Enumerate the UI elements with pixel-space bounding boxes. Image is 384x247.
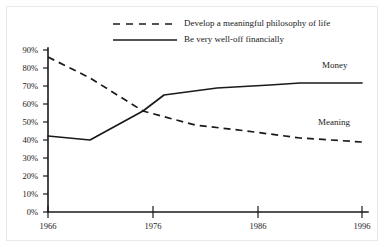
x-tick-label-1976: 1976 (133, 222, 173, 231)
y-tick-label-80: 80% (10, 64, 38, 73)
y-tick-label-50: 50% (10, 118, 38, 127)
chart-figure: 90% 80% 70% 60% 50% 40% 30% 20% 10% 0% 1… (0, 0, 384, 247)
y-tick-label-30: 30% (10, 154, 38, 163)
x-tick-label-1996: 1996 (342, 222, 382, 231)
y-tick-label-20: 20% (10, 172, 38, 181)
x-tick-label-1966: 1966 (28, 222, 68, 231)
y-tick-label-40: 40% (10, 136, 38, 145)
legend-label-meaning: Develop a meaningful philosophy of life (184, 19, 330, 28)
y-tick-label-70: 70% (10, 82, 38, 91)
y-tick-label-0: 0% (10, 208, 38, 217)
y-tick-label-10: 10% (10, 190, 38, 199)
series-label-meaning: Meaning (318, 118, 350, 127)
x-tick-label-1986: 1986 (238, 222, 278, 231)
y-tick-label-60: 60% (10, 100, 38, 109)
series-label-money: Money (322, 61, 348, 70)
legend-label-money: Be very well-off financially (184, 35, 284, 44)
series-line-meaning (48, 57, 362, 142)
y-tick-label-90: 90% (10, 46, 38, 55)
series-line-money (48, 83, 362, 140)
